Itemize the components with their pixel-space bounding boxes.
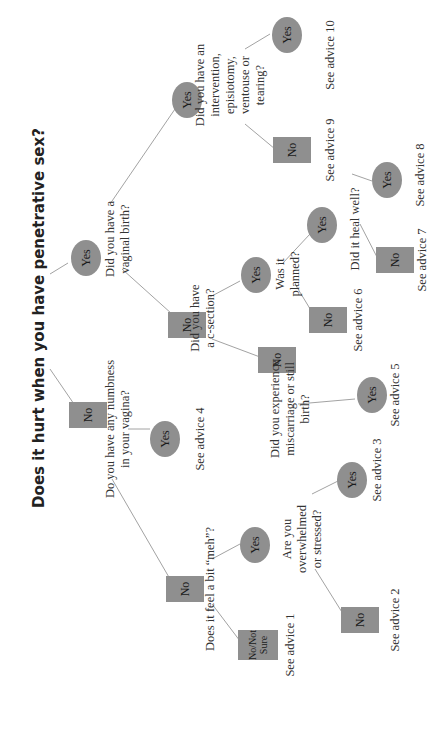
advice-4: See advice 4 (193, 407, 208, 470)
question-planned: Was it planned? (273, 251, 303, 296)
node-heal-yes: Yes (372, 162, 402, 198)
node-numbness-no: No (166, 576, 204, 602)
question-csection: Did you have a c-section? (188, 284, 218, 351)
question-numbness: Do you have any numbness in your vagina? (103, 360, 133, 498)
node-heal-no: No (376, 247, 414, 273)
advice-10: See advice 10 (323, 20, 338, 89)
advice-5: See advice 5 (388, 363, 403, 426)
node-stressed-yes: Yes (337, 462, 367, 498)
advice-6: See advice 6 (351, 288, 366, 351)
advice-1: See advice 1 (283, 613, 298, 676)
question-overwhelmed: Are you overwhelmed or stressed? (280, 505, 325, 573)
node-meh-no-not-sure: No/Not Sure (238, 630, 278, 660)
advice-3: See advice 3 (370, 438, 385, 501)
question-vaginal-birth: Did you have a vaginal birth? (103, 201, 133, 277)
node-miscarriage-yes: Yes (357, 377, 387, 413)
node-root-no: No (69, 402, 107, 428)
diagram-title: Does it hurt when you have penetrative s… (30, 128, 48, 508)
node-stressed-no: No (341, 607, 379, 633)
advice-2: See advice 2 (388, 588, 403, 651)
advice-9: See advice 9 (323, 118, 338, 181)
node-meh-yes: Yes (240, 527, 270, 563)
question-meh: Does it feel a bit “meh”? (203, 527, 218, 651)
node-intervention-yes: Yes (272, 17, 302, 53)
node-csection-yes: Yes (241, 257, 271, 293)
decision-tree: Does it hurt when you have penetrative s… (0, 0, 445, 729)
node-planned-yes: Yes (307, 207, 337, 243)
node-planned-no: No (309, 307, 347, 333)
question-heal: Did it heal well? (348, 188, 363, 271)
node-intervention-no: No (273, 137, 311, 163)
node-root-yes: Yes (71, 240, 101, 276)
advice-7: See advice 7 (415, 228, 430, 291)
question-intervention: Did you have an intervention, episiotomy… (193, 43, 268, 128)
question-miscarriage: Did you experience miscarriage or still … (268, 360, 313, 458)
node-numbness-yes: Yes (150, 421, 180, 457)
advice-8: See advice 8 (413, 143, 428, 206)
